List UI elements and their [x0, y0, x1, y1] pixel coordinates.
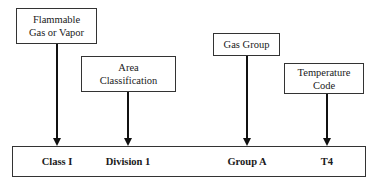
area-arrow-icon — [124, 138, 132, 146]
temperature-code-label-line1: Temperature — [298, 66, 351, 79]
code-temperature: T4 — [321, 156, 333, 167]
temperature-code-box: Temperature Code — [284, 63, 364, 94]
gas-group-box: Gas Group — [213, 33, 280, 56]
temperature-arrow-icon — [323, 138, 331, 146]
flammable-connector-line — [56, 44, 58, 138]
gas-group-connector-line — [246, 56, 248, 138]
area-connector-line — [127, 92, 129, 138]
area-classification-box: Area Classification — [81, 56, 176, 92]
temperature-connector-line — [326, 94, 328, 138]
temperature-code-label-line2: Code — [298, 79, 351, 92]
area-classification-label-line1: Area — [100, 61, 158, 74]
code-group: Group A — [227, 156, 266, 167]
flammable-gas-label-line2: Gas or Vapor — [29, 26, 84, 39]
area-classification-label-line2: Classification — [100, 74, 158, 87]
code-class: Class I — [42, 156, 73, 167]
flammable-gas-box: Flammable Gas or Vapor — [16, 8, 97, 44]
flammable-gas-label-line1: Flammable — [29, 13, 84, 26]
gas-group-label: Gas Group — [224, 38, 270, 51]
code-division: Division 1 — [106, 156, 151, 167]
gas-group-arrow-icon — [243, 138, 251, 146]
flammable-arrow-icon — [53, 138, 61, 146]
